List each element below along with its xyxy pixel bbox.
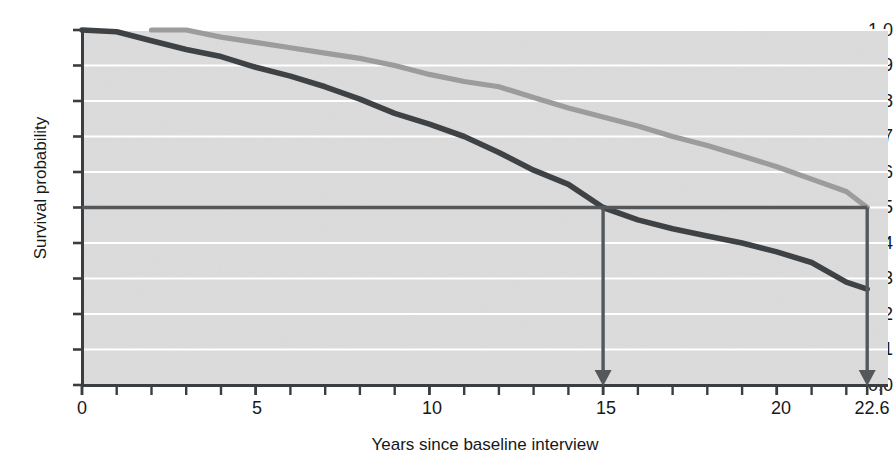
chart-plot-svg	[0, 0, 893, 465]
survival-probability-chart: Survival probability Years since baselin…	[0, 0, 893, 465]
y-axis-ticks	[73, 30, 82, 385]
